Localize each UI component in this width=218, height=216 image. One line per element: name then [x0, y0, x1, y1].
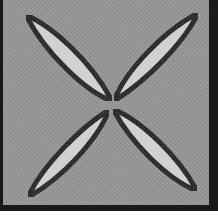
artwork-canvas [0, 0, 218, 216]
panel-group [3, 0, 215, 210]
motif-svg [0, 0, 218, 216]
panel-border-left [0, 0, 3, 212]
panel-border-bottom [0, 205, 218, 211]
panel-border-right [209, 0, 218, 212]
bottom-white-margin [0, 211, 218, 216]
